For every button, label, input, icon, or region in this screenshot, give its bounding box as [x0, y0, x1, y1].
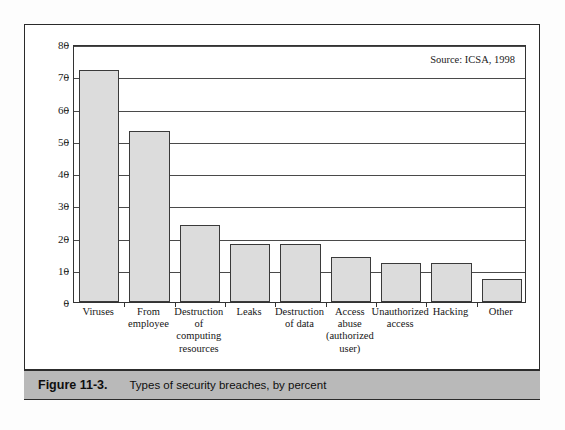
y-axis-tick-mark [64, 206, 69, 207]
y-axis-tick-mark [64, 110, 69, 111]
x-axis-category-label: Other [453, 306, 549, 318]
x-axis-label-line: Other [453, 306, 549, 318]
x-axis-label-line: of [151, 318, 247, 330]
bar [431, 263, 471, 302]
y-axis-tick-mark [64, 303, 69, 304]
x-axis-label-line: resources [151, 343, 247, 355]
figure-border-box: 01020304050607080 Source: ICSA, 1998 Vir… [24, 24, 540, 400]
x-axis-label-line: user) [302, 343, 398, 355]
figure-caption-text: Types of security breaches, by percent [129, 379, 326, 391]
plot-area: Source: ICSA, 1998 [73, 45, 526, 303]
y-axis-tick-labels: 01020304050607080 [25, 45, 69, 303]
bar [381, 263, 421, 302]
x-axis-label-line: access [352, 318, 448, 330]
x-axis-category-labels: VirusesFromemployeeDestructionofcomputin… [73, 306, 526, 378]
bar [180, 225, 220, 302]
bar [331, 257, 371, 302]
y-axis-tick-mark [64, 271, 69, 272]
y-axis-tick-mark [64, 239, 69, 240]
y-axis-tick-mark [64, 45, 69, 46]
bar [129, 131, 169, 302]
source-annotation: Source: ICSA, 1998 [430, 54, 515, 65]
x-axis-label-line: computing [151, 330, 247, 342]
figure-caption-band: Figure 11-3. Types of security breaches,… [24, 369, 540, 400]
bar [482, 279, 522, 302]
bar [79, 70, 119, 302]
bar [230, 244, 270, 302]
y-axis-tick-mark [64, 142, 69, 143]
figure-caption-number: Figure 11-3. [38, 378, 107, 392]
x-axis-label-line: (authorized [302, 330, 398, 342]
figure-root: 01020304050607080 Source: ICSA, 1998 Vir… [0, 0, 565, 430]
y-axis-tick-mark [64, 77, 69, 78]
bar [280, 244, 320, 302]
bars-layer [74, 46, 525, 302]
y-axis-tick-mark [64, 174, 69, 175]
